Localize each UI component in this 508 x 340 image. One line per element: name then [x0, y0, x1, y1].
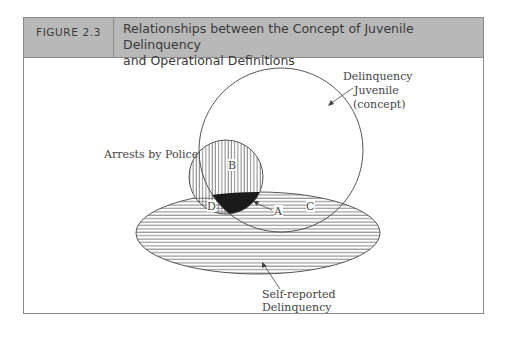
juvenile-label-line-2: Juvenile [353, 84, 399, 97]
region-a-label: A [273, 205, 283, 218]
region-d-label: D [207, 200, 216, 213]
self-reported-label-line-2: Delinquency [262, 301, 332, 314]
juvenile-label-line-3: (concept) [353, 98, 406, 111]
arrow-to-juvenile-circle [330, 88, 353, 104]
juvenile-label-line-1: Delinquency [343, 70, 413, 83]
region-c-label: C [306, 200, 314, 213]
arrests-label: Arrests by Police [103, 148, 198, 161]
region-b-label: B [228, 159, 236, 172]
venn-diagram: B D A C Delinquency Juvenile (concept) A… [0, 0, 508, 340]
self-reported-label-line-1: Self-reported [262, 288, 336, 301]
